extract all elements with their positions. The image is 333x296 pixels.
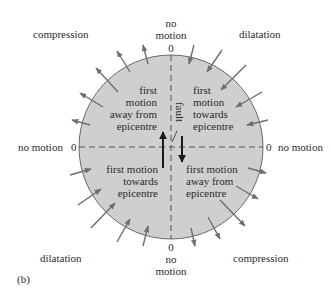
label-top-zero: 0 — [168, 42, 174, 54]
fault-label: fault — [174, 102, 186, 122]
svg-text:first: first — [193, 84, 211, 96]
svg-text:away from: away from — [186, 175, 234, 187]
svg-text:towards: towards — [193, 108, 228, 120]
label-left-zero: 0 — [71, 141, 77, 153]
svg-text:epicentre: epicentre — [117, 120, 157, 132]
label-compression-top-left: compression — [33, 28, 89, 40]
svg-text:epicentre: epicentre — [118, 187, 158, 199]
label-compression-bottom-right: compression — [233, 252, 289, 264]
svg-text:motion: motion — [193, 96, 225, 108]
label-left-no-motion: no motion — [18, 141, 63, 153]
label-bottom-motion: motion — [155, 265, 187, 277]
svg-text:first: first — [139, 84, 157, 96]
svg-text:first motion: first motion — [186, 163, 238, 175]
svg-text:first motion: first motion — [106, 163, 158, 175]
label-bottom-no: no — [166, 253, 178, 265]
svg-text:epicentre: epicentre — [186, 187, 226, 199]
svg-text:away from: away from — [110, 108, 158, 120]
panel-label: (b) — [17, 273, 30, 286]
svg-text:towards: towards — [123, 175, 158, 187]
label-right-no-motion: no motion — [278, 141, 323, 153]
label-top-no: no — [166, 17, 178, 29]
focal-mechanism-diagram: fault compression dilatation dilatation … — [0, 0, 333, 296]
svg-text:epicentre: epicentre — [193, 120, 233, 132]
svg-text:motion: motion — [126, 96, 158, 108]
label-top-motion: motion — [155, 29, 187, 41]
label-right-zero: 0 — [266, 141, 272, 153]
label-dilatation-bottom-left: dilatation — [40, 252, 82, 264]
label-dilatation-top-right: dilatation — [239, 28, 281, 40]
label-bottom-zero: 0 — [168, 241, 174, 253]
